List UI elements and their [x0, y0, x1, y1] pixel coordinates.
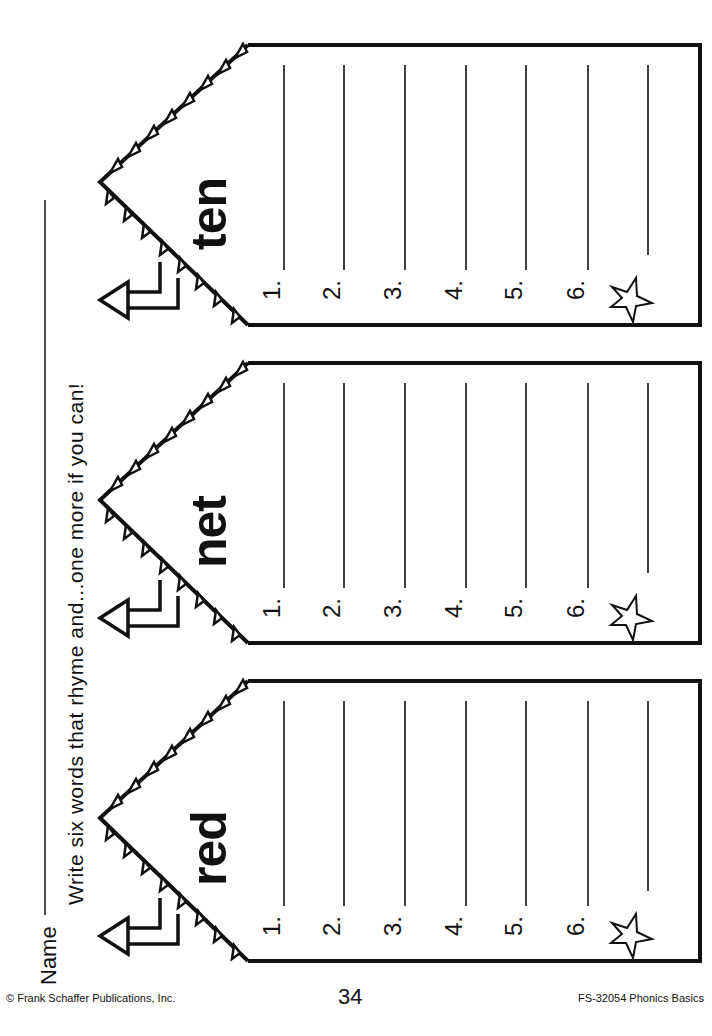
instruction-text: Write six words that rhyme and...one mor…: [64, 383, 88, 905]
line-number: 5.: [500, 598, 528, 618]
copyright: © Frank Schaffer Publications, Inc.: [6, 992, 175, 1004]
name-label: Name: [36, 926, 62, 985]
line-number: 5.: [500, 280, 528, 300]
line-number: 4.: [440, 916, 468, 936]
line-number: 1.: [258, 280, 286, 300]
line-number: 6.: [562, 916, 590, 936]
line-number: 1.: [258, 916, 286, 936]
line-number: 4.: [440, 598, 468, 618]
target-word: ten: [180, 178, 238, 250]
line-number: 2.: [318, 280, 346, 300]
product-code: FS-32054 Phonics Basics: [578, 992, 704, 1004]
target-word: red: [180, 811, 238, 886]
line-number: 3.: [379, 280, 407, 300]
worksheet-drawing: [0, 0, 712, 1036]
line-number: 1.: [258, 598, 286, 618]
line-number: 3.: [379, 916, 407, 936]
line-number: 5.: [500, 916, 528, 936]
target-word: net: [180, 496, 238, 568]
page-number: 34: [338, 984, 362, 1010]
line-number: 4.: [440, 280, 468, 300]
line-number: 6.: [562, 280, 590, 300]
line-number: 2.: [318, 598, 346, 618]
line-number: 2.: [318, 916, 346, 936]
line-number: 3.: [379, 598, 407, 618]
line-number: 6.: [562, 598, 590, 618]
